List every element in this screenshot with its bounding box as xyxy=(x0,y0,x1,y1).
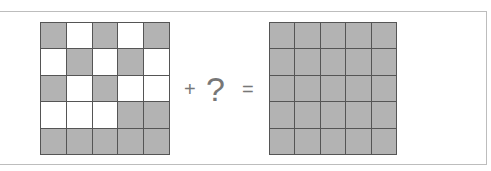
filled-cell xyxy=(270,76,294,101)
filled-cell xyxy=(295,76,319,101)
filled-cell xyxy=(67,49,92,74)
filled-cell xyxy=(93,76,118,101)
empty-cell xyxy=(144,49,169,74)
filled-cell xyxy=(372,49,396,74)
filled-cell xyxy=(372,23,396,48)
filled-cell xyxy=(321,102,345,127)
filled-cell xyxy=(118,102,143,127)
filled-cell xyxy=(295,49,319,74)
empty-cell xyxy=(144,76,169,101)
empty-cell xyxy=(67,76,92,101)
empty-cell xyxy=(41,102,66,127)
filled-cell xyxy=(346,49,370,74)
empty-cell xyxy=(67,23,92,48)
filled-cell xyxy=(144,129,169,154)
filled-cell xyxy=(295,23,319,48)
empty-cell xyxy=(118,23,143,48)
filled-cell xyxy=(372,76,396,101)
filled-cell xyxy=(270,102,294,127)
filled-cell xyxy=(118,49,143,74)
empty-cell xyxy=(41,49,66,74)
left-grid xyxy=(40,22,170,155)
right-grid xyxy=(269,22,397,155)
filled-cell xyxy=(270,23,294,48)
filled-cell xyxy=(67,129,92,154)
filled-cell xyxy=(270,129,294,154)
filled-cell xyxy=(144,102,169,127)
filled-cell xyxy=(321,76,345,101)
filled-cell xyxy=(144,23,169,48)
filled-cell xyxy=(372,129,396,154)
filled-cell xyxy=(270,49,294,74)
empty-cell xyxy=(93,49,118,74)
equals-sign: = xyxy=(242,78,254,101)
filled-cell xyxy=(41,76,66,101)
filled-cell xyxy=(321,49,345,74)
filled-cell xyxy=(93,23,118,48)
filled-cell xyxy=(41,129,66,154)
filled-cell xyxy=(346,129,370,154)
filled-cell xyxy=(372,102,396,127)
filled-cell xyxy=(346,102,370,127)
filled-cell xyxy=(346,76,370,101)
filled-cell xyxy=(93,129,118,154)
plus-sign: + xyxy=(184,78,196,101)
empty-cell xyxy=(93,102,118,127)
filled-cell xyxy=(321,23,345,48)
filled-cell xyxy=(118,129,143,154)
empty-cell xyxy=(67,102,92,127)
filled-cell xyxy=(295,102,319,127)
filled-cell xyxy=(321,129,345,154)
filled-cell xyxy=(41,23,66,48)
filled-cell xyxy=(295,129,319,154)
empty-cell xyxy=(118,76,143,101)
question-mark: ? xyxy=(206,70,225,109)
filled-cell xyxy=(346,23,370,48)
